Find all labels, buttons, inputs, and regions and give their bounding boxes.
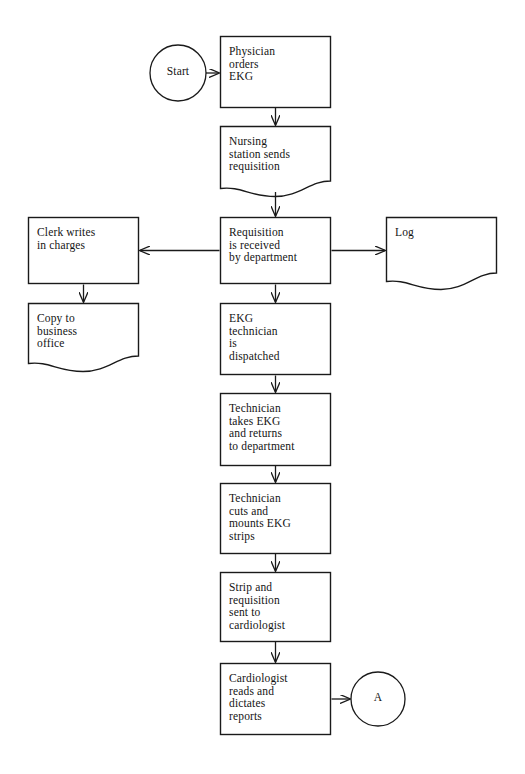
label-connector-a: A (351, 691, 405, 704)
label-clerk-writes-in-charges: Clerk writes in charges (37, 226, 137, 251)
label-technician-takes-ekg: Technician takes EKG and returns to depa… (229, 402, 331, 452)
label-strip-and-requisition-sent: Strip and requisition sent to cardiologi… (229, 581, 329, 631)
label-physician-orders-ekg: Physician orders EKG (229, 45, 329, 83)
label-log: Log (395, 226, 495, 239)
label-start: Start (150, 65, 206, 78)
label-cardiologist-reads-and-dictates: Cardiologist reads and dictates reports (229, 672, 329, 722)
flowchart-graphics (0, 0, 525, 774)
flowchart-canvas: Start Physician orders EKG Nursing stati… (0, 0, 525, 774)
label-requisition-is-received: Requisition is received by department (229, 226, 331, 264)
label-copy-to-business-office: Copy to business office (37, 312, 137, 350)
label-technician-cuts-and-mounts: Technician cuts and mounts EKG strips (229, 492, 331, 542)
label-nursing-station-sends-requisition: Nursing station sends requisition (229, 135, 329, 173)
label-ekg-technician-is-dispatched: EKG technician is dispatched (229, 312, 329, 362)
